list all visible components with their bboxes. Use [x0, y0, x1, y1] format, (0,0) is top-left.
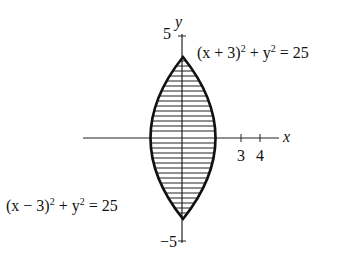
- y-tick-label-5: 5: [163, 26, 171, 42]
- x-axis-label: x: [283, 129, 290, 145]
- hatching: [130, 61, 240, 213]
- equation-right-boundary: (x + 3)2 + y2 = 25: [197, 44, 309, 61]
- y-axis-label: y: [175, 14, 182, 30]
- equation-left-boundary: (x − 3)2 + y2 = 25: [6, 197, 118, 214]
- y-tick-label-neg5: −5: [160, 234, 177, 250]
- x-tick-label-4: 4: [256, 148, 264, 164]
- x-tick-label-3: 3: [237, 148, 245, 164]
